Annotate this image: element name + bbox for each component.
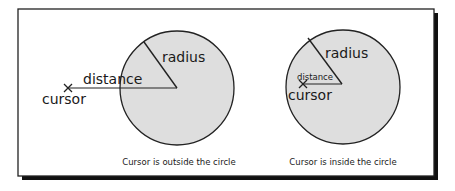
distance-label: distance [83, 71, 142, 87]
distance-label: distance [297, 72, 333, 82]
cursor-circle-diagram: radiuscursordistanceCursor is outside th… [0, 0, 455, 191]
panel-caption: Cursor is inside the circle [289, 157, 396, 167]
cursor-label: cursor [288, 87, 332, 103]
radius-label: radius [325, 45, 368, 61]
panel-caption: Cursor is outside the circle [122, 157, 235, 167]
radius-label: radius [162, 49, 205, 65]
cursor-label: cursor [42, 91, 86, 107]
